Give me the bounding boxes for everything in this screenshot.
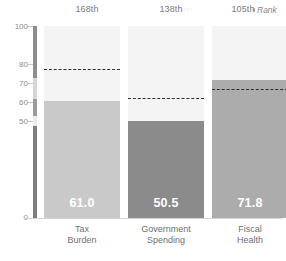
x-category-tax-burden: Tax Burden [44,224,120,246]
bar-government-spending: 50.5 [128,121,204,218]
bar-tax-burden: 61.0 [44,101,120,218]
x-category-government-spending: Government Spending [128,224,204,246]
reference-line-government-spending [128,98,204,99]
x-axis-baseline [24,218,282,219]
bar-fiscal-health: 71.8 [212,80,286,218]
reference-line-tax-burden [44,69,120,70]
y-tick-label-60: 60 [6,99,28,107]
x-category-fiscal-health: Fiscal Health [212,224,286,246]
x-axis-categories: Tax Burden Government Spending Fiscal He… [0,224,286,260]
y-tick-label-80: 80 [6,61,28,69]
bar-value-government-spending: 50.5 [128,196,204,210]
y-tick-label-70: 70 [6,80,28,88]
plot-area: 61.0 50.5 71.8 [36,26,282,218]
rank-annotation: Rank [252,5,277,15]
left-arrow-icon [252,8,255,12]
bar-chart: 168th 138th 105th Rank 100 80 70 60 50 0… [0,0,286,261]
rank-value-tax-burden: 168th [44,4,130,14]
y-tick-label-50: 50 [6,118,28,126]
reference-line-fiscal-health [212,89,286,90]
rank-annotation-label: Rank [257,5,277,15]
bar-value-tax-burden: 61.0 [44,196,120,210]
y-tick-label-100: 100 [6,23,28,31]
rank-header-row: 168th 138th 105th Rank [0,0,286,22]
bar-value-fiscal-health: 71.8 [212,196,286,210]
